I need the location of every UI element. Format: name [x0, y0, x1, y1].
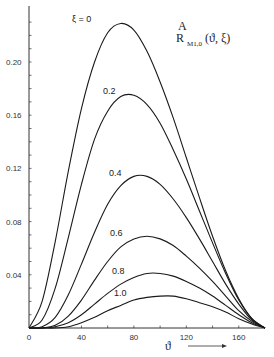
y-tick-label: 0.04 [6, 271, 22, 280]
curve-labels: ξ = 00.20.40.60.81.0 [72, 14, 127, 298]
y-tick-label: 0.16 [6, 111, 22, 120]
curve-label: 1.0 [114, 288, 127, 298]
title-superscript: A [178, 19, 187, 33]
title-main: R [176, 31, 184, 45]
x-tick-label: 40 [77, 333, 86, 342]
x-tick-label: 120 [180, 333, 194, 342]
chart-title: R M1,0 (ϑ, ξ) [176, 31, 230, 49]
curves [29, 23, 265, 328]
curve-label: 0.2 [103, 86, 116, 96]
chart-figure: 0.040.080.120.160.2004080120160 ξ = 00.2… [0, 0, 274, 357]
y-tick-label: 0.12 [6, 164, 22, 173]
title-args: (ϑ, ξ) [205, 31, 230, 45]
curve-label: ξ = 0 [72, 14, 91, 24]
x-tick-label: 0 [27, 333, 32, 342]
curve-label: 0.8 [112, 266, 125, 276]
y-tick-label: 0.08 [6, 218, 22, 227]
curve-label: 0.4 [109, 168, 122, 178]
title-subscript: M1,0 [187, 40, 202, 48]
x-axis-arrowhead-icon [222, 344, 227, 348]
x-tick-label: 80 [129, 333, 138, 342]
curve-label: 0.6 [110, 228, 123, 238]
x-tick-label: 160 [232, 333, 246, 342]
x-axis-label: ϑ [165, 339, 171, 353]
series-curve [29, 94, 265, 328]
y-tick-label: 0.20 [6, 58, 22, 67]
